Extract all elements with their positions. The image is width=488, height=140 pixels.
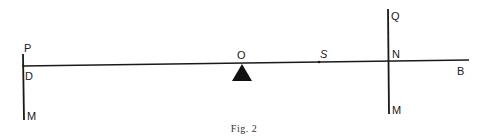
label-m-left: M — [27, 110, 36, 122]
point-s-marker — [318, 61, 321, 64]
label-s: S — [320, 48, 328, 60]
label-d: D — [25, 70, 33, 82]
label-n: N — [392, 48, 400, 60]
label-m-right: M — [392, 104, 401, 116]
right-force-line — [388, 9, 389, 114]
fulcrum-triangle-icon — [232, 64, 252, 81]
label-b: B — [457, 65, 464, 77]
label-p: P — [24, 42, 31, 54]
figure-caption: Fig. 2 — [231, 123, 257, 134]
lever-diagram: P D M O S Q N B M Fig. 2 — [0, 0, 488, 140]
label-o: O — [237, 49, 246, 61]
label-q: Q — [391, 10, 400, 22]
left-force-line — [23, 54, 24, 120]
